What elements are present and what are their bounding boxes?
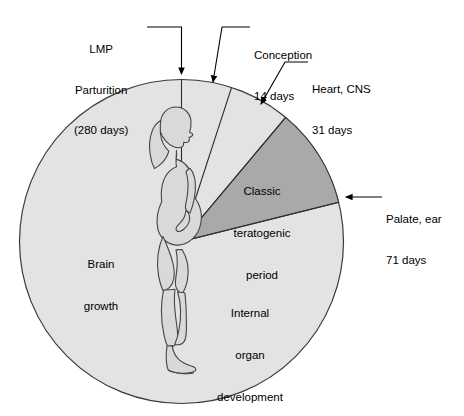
slice-label-internal-line3: development [203, 390, 297, 404]
callout-palate-ear: Palate, ear 71 days [386, 186, 442, 294]
callout-lmp: LMP Parturition (280 days) [74, 16, 128, 165]
callout-heart-cns-line2: 31 days [312, 124, 371, 138]
leader-line-conception [213, 27, 250, 82]
callout-heart-cns: Heart, CNS 31 days [312, 56, 371, 164]
slice-label-brain-growth: Brain growth [66, 229, 136, 341]
slice-label-brain-line1: Brain [66, 257, 136, 271]
callout-lmp-line3: (280 days) [74, 124, 128, 138]
pregnancy-timeline-diagram: LMP Parturition (280 days) Conception 14… [0, 0, 464, 416]
callout-palate-ear-line2: 71 days [386, 254, 442, 268]
slice-label-brain-line2: growth [66, 299, 136, 313]
callout-lmp-line2: Parturition [74, 84, 128, 98]
callout-conception: Conception 14 days [254, 22, 312, 130]
slice-label-classic-line1: Classic [219, 184, 305, 198]
leader-line-lmp [147, 27, 182, 74]
callout-conception-line2: 14 days [254, 90, 312, 104]
slice-label-classic-line2: teratogenic [219, 226, 305, 240]
callout-heart-cns-line1: Heart, CNS [312, 83, 371, 97]
callout-palate-ear-line1: Palate, ear [386, 213, 442, 227]
callout-conception-line1: Conception [254, 49, 312, 63]
slice-label-internal-line2: organ [203, 348, 297, 362]
slice-label-internal-organ-development: Internal organ development [203, 278, 297, 416]
slice-label-internal-line1: Internal [203, 306, 297, 320]
callout-lmp-line1: LMP [74, 43, 128, 57]
